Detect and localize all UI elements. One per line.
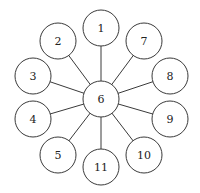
node-8: 8	[152, 58, 188, 94]
node-label: 5	[55, 149, 62, 162]
node-label: 1	[98, 22, 105, 35]
node-label: 3	[30, 70, 37, 83]
node-label: 8	[167, 70, 174, 83]
node-5: 5	[40, 137, 76, 173]
node-2: 2	[40, 23, 76, 59]
nodes-group: 6123451110987	[15, 10, 188, 185]
node-label: 11	[94, 161, 108, 174]
star-diagram: 6123451110987	[0, 0, 200, 193]
node-1: 1	[83, 10, 119, 46]
node-9: 9	[152, 101, 188, 137]
node-label: 2	[55, 35, 62, 48]
node-3: 3	[15, 58, 51, 94]
node-4: 4	[15, 101, 51, 137]
node-11: 11	[83, 149, 119, 185]
node-6: 6	[83, 81, 119, 117]
node-10: 10	[126, 137, 162, 173]
node-label: 9	[167, 113, 174, 126]
node-label: 6	[98, 93, 105, 106]
node-7: 7	[126, 23, 162, 59]
node-label: 10	[137, 149, 151, 162]
node-label: 7	[141, 35, 148, 48]
node-label: 4	[30, 113, 37, 126]
